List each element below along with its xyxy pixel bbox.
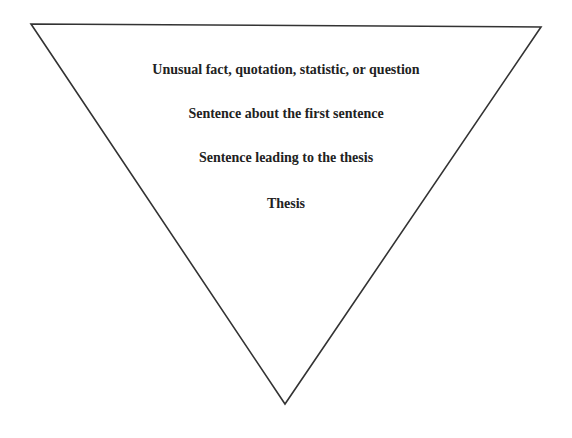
level-3-transition-sentence: Sentence leading to the thesis xyxy=(0,150,572,166)
level-2-supporting-sentence: Sentence about the first sentence xyxy=(0,106,572,122)
inverted-triangle-diagram: Unusual fact, quotation, statistic, or q… xyxy=(0,0,572,438)
level-4-thesis: Thesis xyxy=(0,196,572,212)
level-1-hook: Unusual fact, quotation, statistic, or q… xyxy=(0,62,572,78)
